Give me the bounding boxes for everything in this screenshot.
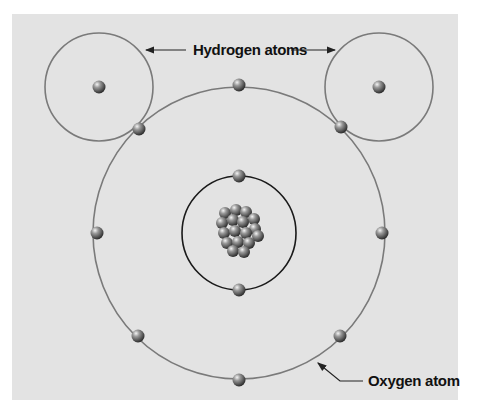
hydrogen-label-group: Hydrogen atoms [146, 41, 335, 58]
oxygen-atom-label: Oxygen atom [368, 372, 460, 389]
water-molecule-diagram: Hydrogen atoms Oxygen atom [0, 0, 478, 406]
oxygen-nucleus [216, 204, 264, 258]
oxygen-label-group: Oxygen atom [318, 363, 460, 389]
hydrogen-atoms-label: Hydrogen atoms [193, 41, 307, 58]
